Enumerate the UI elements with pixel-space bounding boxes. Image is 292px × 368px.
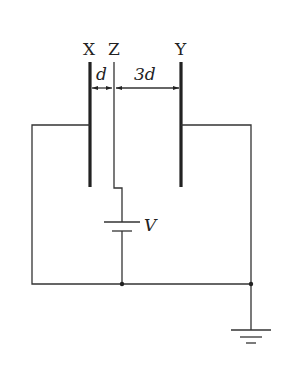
label-plate-y: Y	[174, 39, 187, 59]
dimension-d	[92, 86, 112, 90]
circuit-diagram: X Z Y d 3d V	[0, 0, 292, 368]
ground-icon	[231, 330, 271, 343]
label-plate-z: Z	[108, 39, 120, 59]
dimension-3d	[116, 86, 179, 90]
battery-icon	[104, 222, 140, 284]
junction-dot	[249, 282, 253, 286]
plate-z	[114, 62, 122, 222]
label-gap-d: d	[96, 64, 107, 84]
label-plate-x: X	[83, 39, 96, 59]
wire-right	[181, 125, 251, 330]
wire-left	[32, 125, 122, 284]
label-gap-3d: 3d	[134, 64, 156, 84]
junction-dot	[120, 282, 124, 286]
label-battery-v: V	[144, 215, 158, 235]
